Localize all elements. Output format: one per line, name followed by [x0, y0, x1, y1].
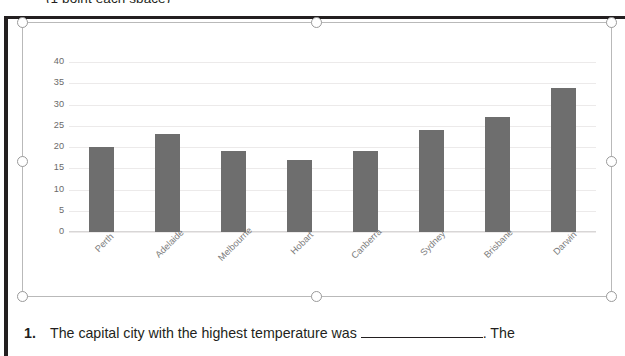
x-axis-category-label: Hobart [288, 230, 315, 257]
document-left-rule [4, 16, 8, 356]
bar-slot [333, 62, 399, 232]
clipped-heading: (1 point each space) [46, 0, 170, 3]
bar-slot [69, 62, 135, 232]
bar[interactable] [485, 117, 510, 232]
x-axis-category-label: Perth [93, 231, 116, 254]
bar-slot [530, 62, 596, 232]
x-label-slot: Perth [69, 234, 135, 289]
chart-object[interactable]: 0510152025303540 PerthAdelaideMelbourneH… [22, 22, 612, 297]
question-text-before: The capital city with the highest temper… [50, 325, 357, 341]
y-axis-tick-label: 25 [54, 121, 64, 130]
bar-slot [267, 62, 333, 232]
y-axis-tick-label: 15 [54, 164, 64, 173]
answer-blank[interactable] [361, 325, 483, 338]
bar-slot [398, 62, 464, 232]
bar[interactable] [419, 130, 444, 232]
x-axis-category-label: Darwin [551, 230, 578, 257]
question-number: 1. [24, 325, 50, 341]
x-label-slot: Brisbane [464, 234, 530, 289]
x-label-slot: Sydney [398, 234, 464, 289]
x-axis-category-labels: PerthAdelaideMelbourneHobartCanberraSydn… [69, 234, 596, 289]
gridline [69, 232, 596, 233]
x-axis-category-label: Sydney [419, 229, 448, 258]
bar-series [69, 62, 596, 232]
bar-slot [201, 62, 267, 232]
bar[interactable] [221, 151, 246, 232]
y-axis-tick-label: 5 [59, 206, 64, 215]
y-axis-tick-labels: 0510152025303540 [34, 62, 64, 232]
x-label-slot: Darwin [530, 234, 596, 289]
y-axis-tick-label: 40 [54, 57, 64, 66]
bar[interactable] [155, 134, 180, 232]
bar-slot [464, 62, 530, 232]
y-axis-tick-label: 30 [54, 100, 64, 109]
y-axis-tick-label: 35 [54, 79, 64, 88]
y-axis-tick-label: 10 [54, 185, 64, 194]
bar[interactable] [89, 147, 114, 232]
bar-chart: 0510152025303540 PerthAdelaideMelbourneH… [22, 22, 612, 297]
x-label-slot: Hobart [267, 234, 333, 289]
question-1: 1.The capital city with the highest temp… [24, 325, 619, 341]
bar-slot [135, 62, 201, 232]
bar[interactable] [551, 88, 576, 233]
bar[interactable] [353, 151, 378, 232]
y-axis-tick-label: 0 [59, 227, 64, 236]
x-label-slot: Adelaide [135, 234, 201, 289]
plot-area [69, 62, 596, 232]
y-axis-tick-label: 20 [54, 142, 64, 151]
x-label-slot: Melbourne [201, 234, 267, 289]
question-text-after: . The [483, 325, 515, 341]
x-label-slot: Canberra [333, 234, 399, 289]
bar[interactable] [287, 160, 312, 232]
